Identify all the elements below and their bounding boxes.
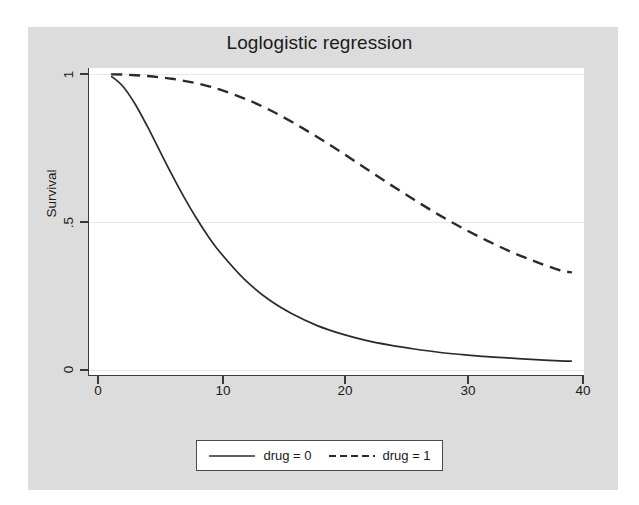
x-tick-label-20: 20 (325, 383, 365, 398)
x-tick-label-30: 30 (448, 383, 488, 398)
legend-label-drug-1: drug = 1 (383, 448, 431, 463)
data-curves (111, 74, 572, 361)
legend-entry-drug-1[interactable]: drug = 1 (328, 441, 431, 470)
x-tick-label-0: 0 (78, 383, 118, 398)
legend-key-solid (208, 450, 256, 462)
plot-region (88, 68, 584, 376)
y-axis-title: Survival (44, 139, 59, 249)
y-tick-label-0: 0 (61, 357, 76, 383)
gridlines (89, 74, 585, 370)
y-tick-label-05: .5 (61, 210, 76, 236)
legend: drug = 0 drug = 1 (196, 440, 443, 471)
chart-screenshot: Loglogistic regression Survival 1 .5 0 0… (0, 0, 639, 505)
y-tick-label-1: 1 (61, 62, 76, 88)
x-tick-label-10: 10 (203, 383, 243, 398)
legend-entry-drug-0[interactable]: drug = 0 (208, 441, 311, 470)
chart-title: Loglogistic regression (0, 32, 639, 54)
legend-label-drug-0: drug = 0 (263, 448, 311, 463)
curve-drug-0 (111, 76, 572, 361)
legend-key-dashed (328, 450, 376, 462)
x-tick-label-40: 40 (563, 383, 603, 398)
plot-canvas (89, 68, 585, 376)
curve-drug-1 (111, 74, 572, 272)
